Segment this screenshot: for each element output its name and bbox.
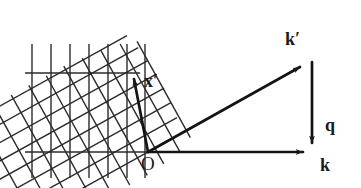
rot-line-a — [0, 48, 138, 139]
label-x-prime: x′ — [144, 72, 158, 90]
vectors — [134, 62, 312, 152]
rot-line-b — [101, 50, 164, 164]
vector-k-prime — [148, 67, 300, 152]
rot-line-b — [120, 44, 180, 152]
rot-line-a — [0, 61, 148, 154]
rot-line-b — [0, 105, 58, 188]
scattering-geometry-figure: k k′ q x′ O — [0, 0, 361, 188]
label-origin: O — [141, 154, 155, 173]
rotated-grid — [0, 29, 196, 188]
label-k-prime: k′ — [285, 30, 300, 48]
label-k: k — [320, 156, 330, 174]
rot-line-b — [29, 85, 95, 188]
diagram-canvas — [0, 0, 361, 188]
label-q: q — [325, 116, 335, 134]
rotated-grid-family-a — [0, 32, 187, 188]
